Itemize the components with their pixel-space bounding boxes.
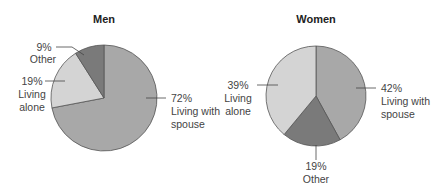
- women-label-spouse-pct: 42%: [381, 82, 402, 94]
- men-pie: [51, 45, 157, 151]
- men-label-spouse-line2: spouse: [171, 118, 205, 130]
- men-label-alone-line1: Living: [18, 88, 46, 100]
- men-label-spouse-line1: Living with: [171, 105, 220, 117]
- women-label-spouse-line1: Living with: [381, 95, 430, 107]
- men-label-other-pct: 9%: [36, 41, 51, 53]
- men-label-alone-line2: alone: [19, 101, 45, 113]
- women-pie: [266, 46, 366, 146]
- women-label-alone-line1: Living: [224, 92, 252, 104]
- men-label-alone-pct: 19%: [21, 75, 42, 87]
- women-label-alone-pct: 39%: [227, 79, 248, 91]
- men-label-other-line1: Other: [30, 53, 57, 65]
- women-chart-title: Women: [296, 13, 336, 25]
- women-label-other-pct: 19%: [305, 160, 326, 172]
- pie-charts: Men 72% Living with spouse 19% Living al…: [0, 0, 446, 195]
- men-label-spouse-pct: 72%: [171, 92, 192, 104]
- women-label-other-line1: Other: [303, 173, 330, 185]
- women-label-spouse-line2: spouse: [381, 108, 415, 120]
- women-label-alone-line2: alone: [225, 105, 251, 117]
- men-chart-title: Men: [93, 13, 115, 25]
